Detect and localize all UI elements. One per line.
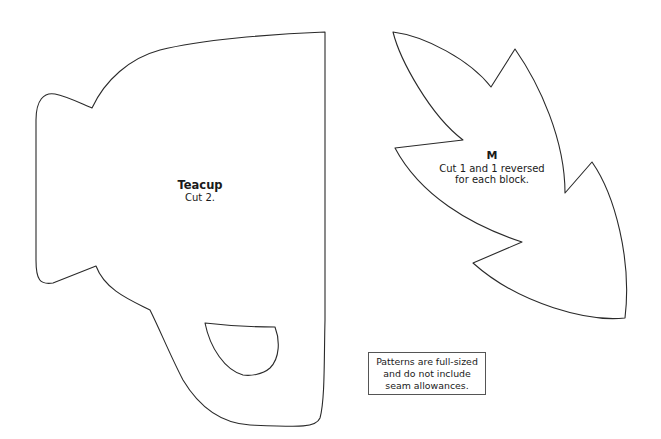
seam-allowance-note: Patterns are full-sized and do not inclu… [368,352,486,395]
teacup-title: Teacup [150,179,250,192]
pattern-canvas [0,0,661,439]
leaf-m-label: M Cut 1 and 1 reversed for each block. [432,150,552,186]
teacup-cut-instruction: Cut 2. [150,192,250,204]
leaf-m-cut-instruction-line-2: for each block. [432,174,552,186]
note-line-1: Patterns are full-sized [371,356,483,368]
teacup-label: Teacup Cut 2. [150,179,250,204]
leaf-m-cut-instruction-line-1: Cut 1 and 1 reversed [432,163,552,175]
leaf-m-title: M [432,150,552,163]
teacup-pattern-outline [36,32,325,426]
note-line-2: and do not include [371,368,483,380]
note-line-3: seam allowances. [371,380,483,392]
